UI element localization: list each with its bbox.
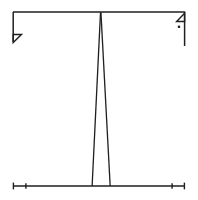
- peak-right-leg: [101, 12, 110, 186]
- marker-dot: [178, 26, 180, 28]
- line-figure: [0, 0, 198, 200]
- right-arrow-marker-icon: [177, 13, 185, 21]
- figure-container: [0, 0, 198, 200]
- peak-left-leg: [92, 12, 100, 186]
- left-arrow-marker-icon: [13, 35, 21, 43]
